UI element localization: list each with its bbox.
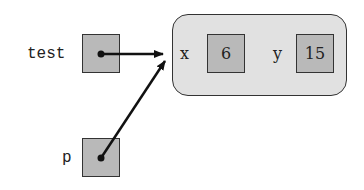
reference-arrows xyxy=(0,0,364,190)
arrow-test-to-object xyxy=(98,51,164,58)
arrow-p-to-object xyxy=(98,61,166,162)
